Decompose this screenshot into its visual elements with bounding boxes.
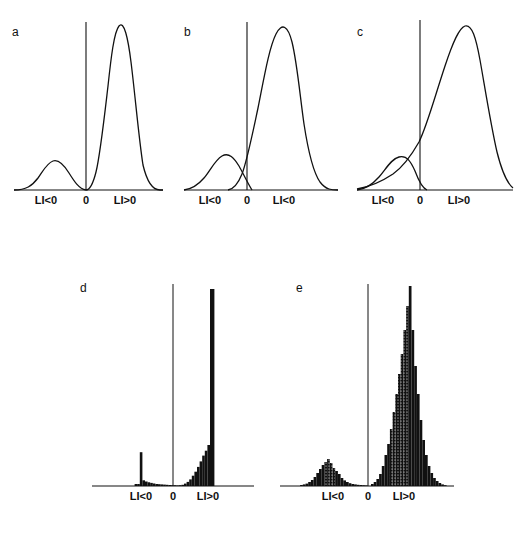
- panel-a: a LI<0 0 LI>0: [0, 0, 175, 230]
- axis-label-zero: 0: [417, 193, 423, 207]
- panel-c-axis-labels: LI<0 0 LI>0: [345, 193, 524, 209]
- panel-e: e: [268, 258, 468, 533]
- panel-b: b LI<0 0 LI<0: [172, 0, 350, 230]
- panel-a-axis-labels: LI<0 0 LI>0: [0, 193, 175, 209]
- figure-root: a LI<0 0 LI>0 b LI<0 0 LI<0 c: [0, 0, 524, 533]
- axis-label-negative: LI<0: [372, 193, 394, 207]
- axis-label-positive: LI>0: [197, 489, 219, 503]
- density-curve-right: [357, 26, 513, 189]
- panel-d-axis-labels: LI<0 0 LI>0: [78, 489, 268, 505]
- axis-label-negative: LI<0: [130, 489, 152, 503]
- panel-b-plot: [172, 0, 350, 210]
- density-curve-left: [357, 157, 427, 190]
- axis-label-negative: LI<0: [199, 193, 221, 207]
- axis-label-negative: LI<0: [35, 193, 57, 207]
- panel-c-plot: [345, 0, 524, 210]
- density-curve-right: [228, 27, 338, 190]
- panel-c: c LI<0 0 LI>0: [345, 0, 524, 230]
- panel-a-plot: [0, 0, 175, 210]
- panel-d: d: [78, 258, 268, 533]
- axis-label-positive: LI<0: [273, 193, 295, 207]
- density-curve-left: [14, 161, 86, 190]
- axis-label-positive: LI>0: [393, 489, 415, 503]
- axis-label-zero: 0: [170, 489, 176, 503]
- panel-e-axis-labels: LI<0 0 LI>0: [268, 489, 468, 505]
- panel-d-plot: [78, 258, 268, 503]
- panel-b-axis-labels: LI<0 0 LI<0: [172, 193, 350, 209]
- axis-label-zero: 0: [244, 193, 250, 207]
- axis-label-zero: 0: [365, 489, 371, 503]
- panel-e-plot: [268, 258, 468, 503]
- density-curve-right: [86, 25, 163, 190]
- density-curve-left: [184, 155, 252, 190]
- axis-label-positive: LI>0: [114, 193, 136, 207]
- axis-label-negative: LI<0: [322, 489, 344, 503]
- histogram-bars: [300, 286, 447, 486]
- axis-label-positive: LI>0: [448, 193, 470, 207]
- histogram-bars: [135, 289, 215, 486]
- axis-label-zero: 0: [83, 193, 89, 207]
